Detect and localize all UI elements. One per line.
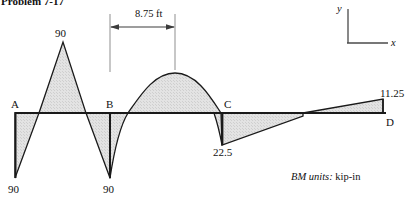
units-note-emphasis: BM units: bbox=[291, 171, 333, 182]
dimension-label: 8.75 ft bbox=[135, 9, 162, 20]
value-label-d-positive: 11.25 bbox=[380, 88, 404, 99]
node-label-c: C bbox=[224, 99, 231, 110]
moment-region-bc-positive bbox=[128, 73, 221, 113]
axis-label-y: y bbox=[337, 4, 342, 15]
node-label-d: D bbox=[386, 117, 394, 128]
moment-region-a-negative bbox=[15, 113, 39, 178]
value-label-peak-a-top: 90 bbox=[55, 28, 66, 39]
problem-header-clip: Problem 7-17 bbox=[0, 0, 120, 8]
bending-moment-diagram: Problem 7-17 8.75 ft y x 90 A B C D 90 9… bbox=[0, 0, 413, 205]
node-label-a: A bbox=[11, 99, 19, 110]
axis-label-x: x bbox=[391, 38, 396, 49]
moment-region-b-negative bbox=[86, 113, 110, 178]
dimension-arrowhead-right bbox=[166, 24, 175, 30]
dimension-arrowhead-left bbox=[110, 24, 119, 30]
moment-region-ab-positive bbox=[39, 42, 86, 113]
units-note-value: kip-in bbox=[335, 171, 360, 182]
moment-region-d-positive bbox=[303, 99, 383, 113]
value-label-c-negative: 22.5 bbox=[213, 147, 232, 158]
node-label-b: B bbox=[106, 99, 113, 110]
value-label-bottom-a: 90 bbox=[8, 184, 19, 195]
units-note: BM units: kip-in bbox=[291, 172, 360, 183]
moment-region-b-cusp-negative bbox=[110, 113, 128, 178]
moment-region-cd-negative bbox=[222, 113, 303, 145]
moment-region-c-cusp-negative bbox=[214, 113, 222, 145]
value-label-bottom-b: 90 bbox=[103, 184, 114, 195]
problem-header: Problem 7-17 bbox=[1, 0, 64, 7]
